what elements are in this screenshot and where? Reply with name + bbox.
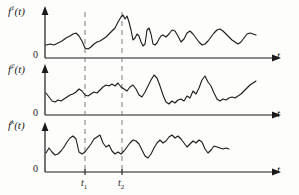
marker-lines-group (85, 12, 122, 172)
x-axis-arrow-1 (272, 55, 281, 62)
plot-canvas (0, 0, 299, 195)
waveform-f1t (46, 15, 256, 49)
y-axis-arrow-2 (42, 64, 49, 73)
y-axis-arrow-1 (42, 6, 49, 15)
curves-group (46, 15, 256, 158)
x-axis-arrow-2 (272, 112, 281, 119)
waveform-f2t (46, 75, 256, 104)
y-axis-arrow-3 (42, 122, 49, 131)
random-process-figure: f1(t) 0 t f2(t) 0 t fk(t) 0 t t1 t2 (0, 0, 299, 195)
waveform-fkt (46, 135, 229, 158)
x-axis-arrow-3 (272, 169, 281, 176)
